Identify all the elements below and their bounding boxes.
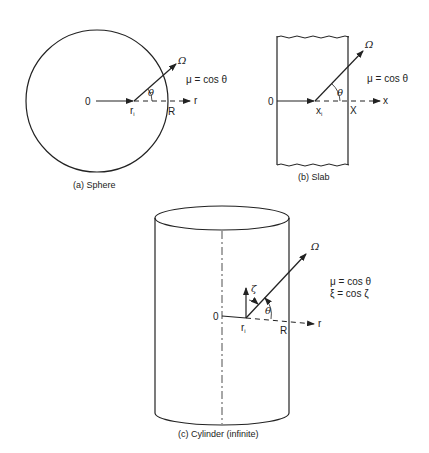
theta-label: θ — [148, 87, 154, 98]
origin-label: 0 — [268, 96, 274, 107]
x-axis-label: x — [383, 95, 388, 106]
ri-label: ri — [241, 322, 246, 334]
omega-label: Ω — [364, 39, 373, 50]
r-axis-label: r — [194, 95, 198, 106]
omega-arrow — [134, 64, 176, 101]
sphere-panel: 0 ri R r Ω θ μ = cos θ (a) Sphere — [26, 30, 227, 190]
theta-label: θ — [265, 305, 271, 316]
mu-equation: μ = cos θ — [186, 74, 227, 85]
caption-sphere: (a) Sphere — [73, 180, 116, 190]
R-label: R — [168, 106, 175, 117]
mu-equation: μ = cos θ — [330, 276, 371, 287]
origin-label: 0 — [213, 311, 219, 322]
origin-label: 0 — [85, 96, 91, 107]
omega-label: Ω — [310, 241, 319, 252]
xi-label: xi — [316, 105, 322, 117]
r-axis — [246, 318, 314, 324]
radius-line — [222, 316, 246, 318]
geometry-diagram: 0 ri R r Ω θ μ = cos θ (a) Sphere 0 xi X… — [0, 0, 429, 453]
caption-cylinder: (c) Cylinder (infinite) — [178, 429, 259, 439]
mu-equation: μ = cos θ — [367, 73, 408, 84]
cylinder-panel: 0 ri R r Ω ζ θ μ = cos θ ξ = cos ζ (c) C… — [155, 206, 371, 439]
zeta-arc — [249, 300, 258, 304]
cylinder-top — [155, 206, 289, 230]
caption-slab: (b) Slab — [298, 172, 330, 182]
xi-equation: ξ = cos ζ — [330, 288, 369, 300]
R-label: R — [280, 325, 287, 336]
omega-label: Ω — [177, 55, 186, 66]
X-label: X — [350, 105, 357, 116]
zeta-label: ζ — [251, 283, 257, 294]
slab-panel: 0 xi X x Ω θ μ = cos θ (b) Slab — [268, 36, 408, 182]
ri-label: ri — [130, 105, 135, 117]
theta-label: θ — [337, 87, 343, 98]
r-axis-label: r — [318, 318, 322, 329]
